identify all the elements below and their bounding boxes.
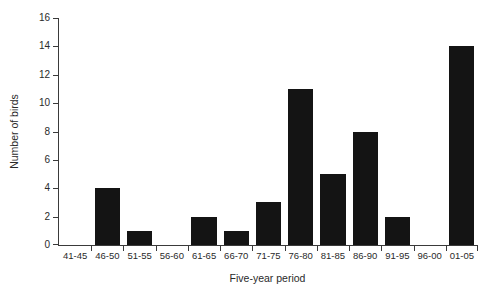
y-axis-tick-label: 14 <box>23 40 50 52</box>
x-axis-tick-label: 61-65 <box>188 250 220 262</box>
y-axis-tick-label: 6 <box>23 154 50 166</box>
y-axis-tick-label: 12 <box>23 69 50 81</box>
y-axis-tick <box>53 217 58 218</box>
bar <box>224 231 249 245</box>
x-axis-tick-label: 51-55 <box>123 250 155 262</box>
bar <box>95 188 120 245</box>
y-axis-tick <box>53 75 58 76</box>
y-axis-tick-label: 16 <box>23 12 50 24</box>
y-axis-tick <box>53 244 58 245</box>
y-axis-title: Number of birds <box>8 18 21 246</box>
bar <box>320 174 345 245</box>
x-axis-tick-label: 01-05 <box>446 250 478 262</box>
x-axis-tick-label: 91-95 <box>381 250 413 262</box>
y-axis-tick <box>53 46 58 47</box>
y-axis-tick-label: 4 <box>23 182 50 194</box>
x-axis-title: Five-year period <box>58 272 477 284</box>
y-axis-tick <box>53 103 58 104</box>
x-axis-tick-label: 76-80 <box>285 250 317 262</box>
bar <box>256 202 281 245</box>
x-axis-tick-label: 71-75 <box>252 250 284 262</box>
bar <box>127 231 152 245</box>
x-axis-tick-label: 96-00 <box>414 250 446 262</box>
x-axis-tick-label: 86-90 <box>349 250 381 262</box>
plot-area: 024681012141641-4546-5051-5556-6061-6566… <box>58 18 478 246</box>
bar <box>191 217 216 245</box>
bar <box>288 89 313 245</box>
bar <box>449 46 474 245</box>
y-axis-tick-label: 8 <box>23 126 50 138</box>
bar-chart: Number of birds 024681012141641-4546-505… <box>0 0 493 302</box>
x-axis-tick-label: 46-50 <box>91 250 123 262</box>
x-axis-tick-label: 81-85 <box>317 250 349 262</box>
y-axis-tick-label: 10 <box>23 97 50 109</box>
bar <box>385 217 410 245</box>
y-axis-tick <box>53 132 58 133</box>
y-axis-tick <box>53 188 58 189</box>
bar <box>353 132 378 246</box>
y-axis-tick <box>53 18 58 19</box>
y-axis-tick-label: 2 <box>23 211 50 223</box>
x-axis-tick-label: 56-60 <box>156 250 188 262</box>
y-axis-tick <box>53 160 58 161</box>
x-axis-tick-label: 66-70 <box>220 250 252 262</box>
x-axis-tick-label: 41-45 <box>59 250 91 262</box>
y-axis-tick-label: 0 <box>23 239 50 251</box>
